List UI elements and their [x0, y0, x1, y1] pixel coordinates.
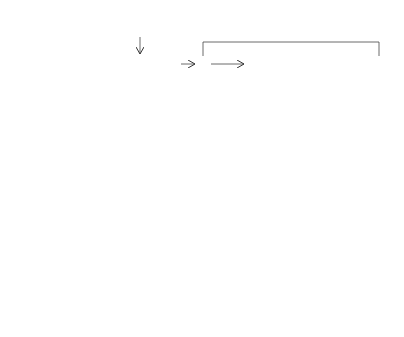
- diagram-edges: [0, 0, 404, 337]
